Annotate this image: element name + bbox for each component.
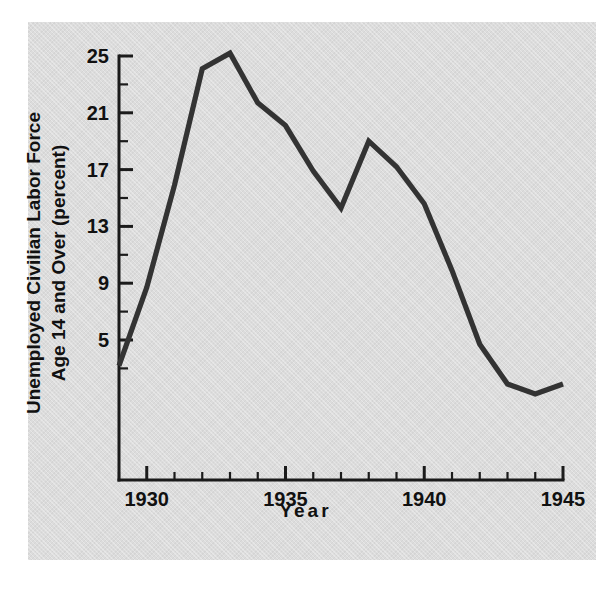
y-tick-label: 21 <box>87 102 109 124</box>
x-axis-ticks <box>119 466 563 480</box>
unemployment-series-line <box>119 53 563 394</box>
y-axis-title-line-2: Age 14 and Over (percent) <box>46 68 71 458</box>
y-tick-label: 13 <box>87 215 109 237</box>
chart-axes <box>119 56 563 480</box>
y-axis-ticks <box>119 56 133 368</box>
page-caption-fragment <box>28 578 328 591</box>
y-tick-label: 9 <box>98 272 109 294</box>
x-axis-title-text: Year <box>279 500 331 521</box>
y-axis-title: Unemployed Civilian Labor Force Age 14 a… <box>21 68 71 458</box>
y-tick-label: 25 <box>87 45 109 67</box>
y-tick-label: 17 <box>87 159 109 181</box>
y-axis-title-line-1: Unemployed Civilian Labor Force <box>21 68 46 458</box>
x-axis-title: Year <box>0 500 611 522</box>
y-axis-tick-labels: 5913172125 <box>87 45 109 351</box>
y-tick-label: 5 <box>98 329 109 351</box>
